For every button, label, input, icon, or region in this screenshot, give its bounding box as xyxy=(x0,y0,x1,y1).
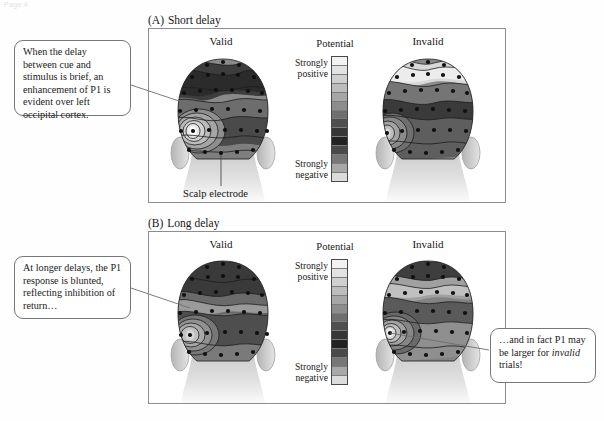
colorbar-step xyxy=(332,314,347,323)
colorbar-step xyxy=(332,137,347,146)
colorbar-step xyxy=(332,340,347,349)
colorbar-step xyxy=(332,269,347,278)
panel-a-legend-high-label: Strongly positive xyxy=(283,57,328,79)
panel-a-invalid-title: Invalid xyxy=(382,35,474,47)
panel-b-label: (B)Long delay xyxy=(148,217,219,229)
colorbar-step xyxy=(332,84,347,93)
head-map-b-invalid-svg xyxy=(368,251,488,403)
panel-a-label: (A)Short delay xyxy=(148,14,221,26)
figure-root: Page 4 (A)Short delay Valid Invalid xyxy=(0,0,604,421)
page-header-note: Page 4 xyxy=(4,1,28,8)
panel-b-valid-title: Valid xyxy=(178,238,264,250)
colorbar-step xyxy=(332,111,347,120)
head-map-a-invalid xyxy=(368,49,488,201)
panel-b-legend-low-label: Strongly negative xyxy=(283,361,328,383)
colorbar-step xyxy=(332,93,347,102)
colorbar-step xyxy=(332,358,347,367)
scalp-electrode-label: Scalp electrode xyxy=(183,188,248,199)
colorbar-step xyxy=(332,102,347,111)
head-map-a-invalid-svg xyxy=(368,49,488,201)
head-map-b-invalid xyxy=(368,251,488,403)
colorbar-step xyxy=(332,146,347,155)
callout-long-delay: At longer delays, the P1 response is blu… xyxy=(14,256,131,319)
colorbar-step xyxy=(332,367,347,376)
colorbar-step xyxy=(332,305,347,314)
callout-invalid-larger: …and in fact P1 may be larger for invali… xyxy=(490,328,596,383)
panel-b-legend-high-label: Strongly positive xyxy=(283,260,328,282)
colorbar-step xyxy=(332,155,347,164)
head-map-a-valid-svg xyxy=(163,49,283,201)
colorbar-step xyxy=(332,349,347,358)
panel-a-legend-title: Potential xyxy=(300,38,370,49)
colorbar-step xyxy=(332,128,347,137)
colorbar-step xyxy=(332,75,347,84)
panel-b-invalid-title: Invalid xyxy=(382,238,474,250)
panel-a-valid-title: Valid xyxy=(178,35,264,47)
colorbar-step xyxy=(332,57,347,66)
colorbar-step xyxy=(332,287,347,296)
panel-a-colorbar xyxy=(331,56,348,182)
callout-invalid-text-after: trials! xyxy=(499,359,523,370)
callout-invalid-italic-word: invalid xyxy=(552,347,580,358)
head-map-b-valid-svg xyxy=(163,251,283,403)
head-map-a-valid xyxy=(163,49,283,201)
callout-short-delay: When the delay between cue and stimulus … xyxy=(14,40,131,116)
panel-a-legend-low-label: Strongly negative xyxy=(283,158,328,180)
panel-a-letter: (A) xyxy=(148,14,164,26)
colorbar-step xyxy=(332,376,347,384)
panel-a-title: Short delay xyxy=(168,14,221,26)
colorbar-step xyxy=(332,322,347,331)
colorbar-step xyxy=(332,173,347,181)
colorbar-step xyxy=(332,260,347,269)
panel-b-letter: (B) xyxy=(148,217,163,229)
panel-b-colorbar xyxy=(331,259,348,385)
head-map-b-valid xyxy=(163,251,283,403)
colorbar-step xyxy=(332,66,347,75)
panel-b-legend-title: Potential xyxy=(300,241,370,252)
colorbar-step xyxy=(332,331,347,340)
colorbar-step xyxy=(332,164,347,173)
colorbar-step xyxy=(332,119,347,128)
colorbar-step xyxy=(332,278,347,287)
colorbar-step xyxy=(332,296,347,305)
panel-b-title: Long delay xyxy=(167,217,219,229)
